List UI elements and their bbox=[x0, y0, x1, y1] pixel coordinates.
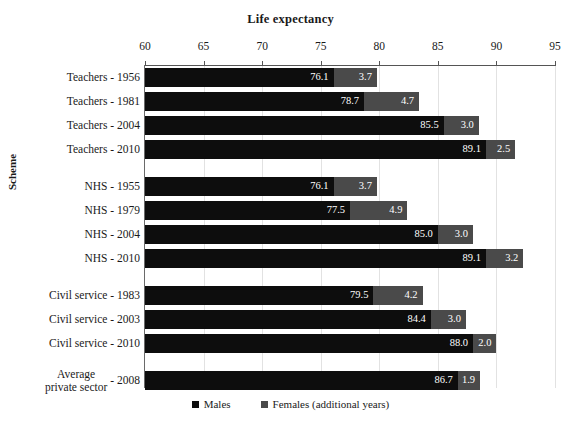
bar-row[interactable]: 85.03.0 bbox=[145, 225, 555, 244]
y-category-label-text: Civil service - 2003 bbox=[49, 313, 140, 325]
x-tick-mark bbox=[262, 61, 263, 66]
bar-segment-females[interactable]: 4.7 bbox=[364, 92, 419, 111]
bar-row[interactable]: 89.12.5 bbox=[145, 140, 555, 159]
bar-segment-females[interactable]: 4.9 bbox=[350, 201, 407, 220]
y-axis-category-labels: Teachers - 1956Teachers - 1981Teachers -… bbox=[0, 66, 140, 388]
bar-segment-females[interactable]: 3.7 bbox=[334, 177, 377, 196]
bar-value-females: 2.0 bbox=[478, 338, 496, 349]
bar-value-females: 3.7 bbox=[359, 181, 377, 192]
bar-value-females: 4.9 bbox=[389, 205, 407, 216]
bar-row[interactable]: 76.13.7 bbox=[145, 68, 555, 87]
chart-legend: MalesFemales (additional years) bbox=[0, 398, 581, 410]
bar-value-males: 89.1 bbox=[463, 253, 486, 264]
legend-entry[interactable]: Males bbox=[192, 398, 231, 410]
plot-area: 76.13.778.74.785.53.089.12.576.13.777.54… bbox=[145, 66, 555, 388]
legend-swatch-icon bbox=[192, 401, 199, 408]
bar-segment-females[interactable]: 3.0 bbox=[431, 310, 466, 329]
bar-value-females: 1.9 bbox=[462, 375, 480, 386]
chart-title: Life expectancy bbox=[0, 12, 581, 27]
x-tick-label: 90 bbox=[491, 40, 503, 52]
y-category-label-text: NHS - 2004 bbox=[84, 228, 140, 240]
bar-segment-males[interactable]: 78.7 bbox=[145, 92, 364, 111]
bar-segment-males[interactable]: 76.1 bbox=[145, 68, 334, 87]
x-tick-mark bbox=[438, 61, 439, 66]
y-category-label: Teachers - 1981 bbox=[67, 92, 140, 111]
bar-row[interactable]: 77.54.9 bbox=[145, 201, 555, 220]
bar-segment-males[interactable]: 79.5 bbox=[145, 286, 373, 305]
x-tick-mark bbox=[379, 61, 380, 66]
y-category-label-text: Teachers - 2010 bbox=[67, 143, 140, 155]
bar-segment-females[interactable]: 3.0 bbox=[444, 116, 479, 135]
bar-value-females: 4.2 bbox=[404, 290, 422, 301]
bar-segment-males[interactable]: 89.1 bbox=[145, 140, 486, 159]
y-category-label: Averageprivate sector- 2008 bbox=[45, 371, 140, 390]
bar-segment-males[interactable]: 84.4 bbox=[145, 310, 431, 329]
y-category-label-text: Teachers - 1981 bbox=[67, 95, 140, 107]
x-tick-mark bbox=[145, 61, 146, 66]
legend-label: Males bbox=[204, 398, 231, 410]
bar-value-females: 4.7 bbox=[401, 96, 419, 107]
bar-value-males: 78.7 bbox=[341, 96, 364, 107]
bar-value-females: 3.0 bbox=[448, 314, 466, 325]
y-category-label-line1: Average bbox=[45, 368, 107, 380]
bar-segment-males[interactable]: 76.1 bbox=[145, 177, 334, 196]
y-category-label: NHS - 2010 bbox=[84, 249, 140, 268]
y-category-label: NHS - 2004 bbox=[84, 225, 140, 244]
bar-segment-males[interactable]: 77.5 bbox=[145, 201, 350, 220]
y-category-label-line2: private sector bbox=[45, 381, 107, 393]
x-tick-mark bbox=[321, 61, 322, 66]
y-category-label: Teachers - 2004 bbox=[67, 116, 140, 135]
bar-segment-females[interactable]: 4.2 bbox=[373, 286, 422, 305]
x-tick-label: 85 bbox=[432, 40, 444, 52]
bar-row[interactable]: 76.13.7 bbox=[145, 177, 555, 196]
bar-segment-males[interactable]: 86.7 bbox=[145, 371, 458, 390]
y-category-label-text: NHS - 1955 bbox=[84, 180, 140, 192]
bar-value-females: 3.2 bbox=[505, 253, 523, 264]
bar-segment-males[interactable]: 85.0 bbox=[145, 225, 438, 244]
bar-segment-females[interactable]: 2.0 bbox=[473, 334, 496, 353]
x-axis-spine bbox=[145, 65, 555, 66]
x-tick-mark bbox=[204, 61, 205, 66]
bar-segment-females[interactable]: 3.7 bbox=[334, 68, 377, 87]
bar-value-males: 88.0 bbox=[450, 338, 473, 349]
bar-value-males: 89.1 bbox=[463, 144, 486, 155]
bar-value-females: 2.5 bbox=[497, 144, 515, 155]
bar-row[interactable]: 86.71.9 bbox=[145, 371, 555, 390]
y-category-label: Teachers - 2010 bbox=[67, 140, 140, 159]
bar-row[interactable]: 78.74.7 bbox=[145, 92, 555, 111]
legend-entry[interactable]: Females (additional years) bbox=[261, 398, 390, 410]
y-category-label-text: Civil service - 1983 bbox=[49, 289, 140, 301]
bar-value-males: 77.5 bbox=[327, 205, 350, 216]
legend-swatch-icon bbox=[261, 401, 268, 408]
y-category-label: Civil service - 2010 bbox=[49, 334, 140, 353]
x-tick-mark bbox=[496, 61, 497, 66]
bar-value-males: 76.1 bbox=[310, 72, 333, 83]
bar-row[interactable]: 88.02.0 bbox=[145, 334, 555, 353]
x-tick-label: 95 bbox=[549, 40, 561, 52]
bar-segment-females[interactable]: 3.2 bbox=[486, 249, 523, 268]
bar-segment-males[interactable]: 89.1 bbox=[145, 249, 486, 268]
bar-row[interactable]: 84.43.0 bbox=[145, 310, 555, 329]
x-tick-label: 65 bbox=[198, 40, 210, 52]
bar-value-males: 85.0 bbox=[414, 229, 437, 240]
bar-value-males: 85.5 bbox=[420, 120, 443, 131]
x-tick-label: 60 bbox=[139, 40, 151, 52]
x-tick-mark bbox=[555, 61, 556, 66]
y-category-label: NHS - 1979 bbox=[84, 201, 140, 220]
bar-row[interactable]: 89.13.2 bbox=[145, 249, 555, 268]
bar-segment-females[interactable]: 3.0 bbox=[438, 225, 473, 244]
x-tick-label: 80 bbox=[374, 40, 386, 52]
y-category-label-text: Civil service - 2010 bbox=[49, 337, 140, 349]
bar-value-females: 3.0 bbox=[455, 229, 473, 240]
x-tick-label: 75 bbox=[315, 40, 327, 52]
bar-segment-females[interactable]: 2.5 bbox=[486, 140, 515, 159]
bar-segment-females[interactable]: 1.9 bbox=[458, 371, 480, 390]
bar-row[interactable]: 85.53.0 bbox=[145, 116, 555, 135]
life-expectancy-chart: Life expectancy Scheme 6065707580859095 … bbox=[0, 0, 581, 433]
bar-row[interactable]: 79.54.2 bbox=[145, 286, 555, 305]
bar-segment-males[interactable]: 85.5 bbox=[145, 116, 444, 135]
bar-segment-males[interactable]: 88.0 bbox=[145, 334, 473, 353]
y-category-label-text: NHS - 2010 bbox=[84, 252, 140, 264]
bar-value-females: 3.0 bbox=[461, 120, 479, 131]
bar-value-males: 84.4 bbox=[407, 314, 430, 325]
